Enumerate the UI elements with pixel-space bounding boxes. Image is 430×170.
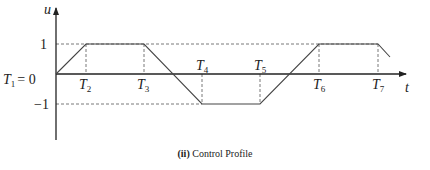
t3-label: T3	[137, 77, 150, 94]
t7-label: T7	[372, 77, 385, 94]
u-axis-label: u	[44, 2, 51, 17]
t6-label: T6	[313, 77, 326, 94]
t4-label: T4	[196, 58, 209, 75]
t2-label: T2	[79, 77, 91, 94]
y-tick-neg1: −1	[34, 97, 49, 112]
figure-caption: (ii) Control Profile	[0, 148, 430, 159]
origin-label: T1= 0	[3, 72, 36, 89]
t5-label: T5	[254, 58, 267, 75]
y-tick-1: 1	[40, 37, 47, 52]
t-axis-label: t	[405, 80, 410, 95]
caption-prefix: (ii)	[178, 148, 190, 159]
control-profile-diagram: u t 1 −1 T1= 0 T2 T3 T4 T5 T6 T7	[0, 0, 430, 170]
caption-text: Control Profile	[192, 148, 252, 159]
